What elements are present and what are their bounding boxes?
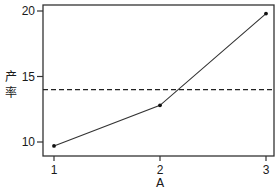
y-tick-label: 20 <box>22 4 36 18</box>
main-effects-plot: 101520 123 产 率 A <box>0 0 279 194</box>
data-point <box>264 12 268 16</box>
data-point <box>158 103 162 107</box>
x-axis-label: A <box>156 176 165 190</box>
y-tick-label: 15 <box>22 70 36 84</box>
plot-frame <box>43 5 274 156</box>
x-tick-label: 2 <box>157 163 164 177</box>
data-point <box>52 144 56 148</box>
y-axis-label-char-2: 率 <box>5 85 17 100</box>
y-axis-ticks: 101520 <box>22 4 43 149</box>
y-axis-label-char-1: 产 <box>5 70 17 84</box>
x-tick-label: 3 <box>263 163 270 177</box>
x-axis-ticks: 123 <box>51 156 270 177</box>
x-tick-label: 1 <box>51 163 58 177</box>
y-tick-label: 10 <box>22 135 36 149</box>
